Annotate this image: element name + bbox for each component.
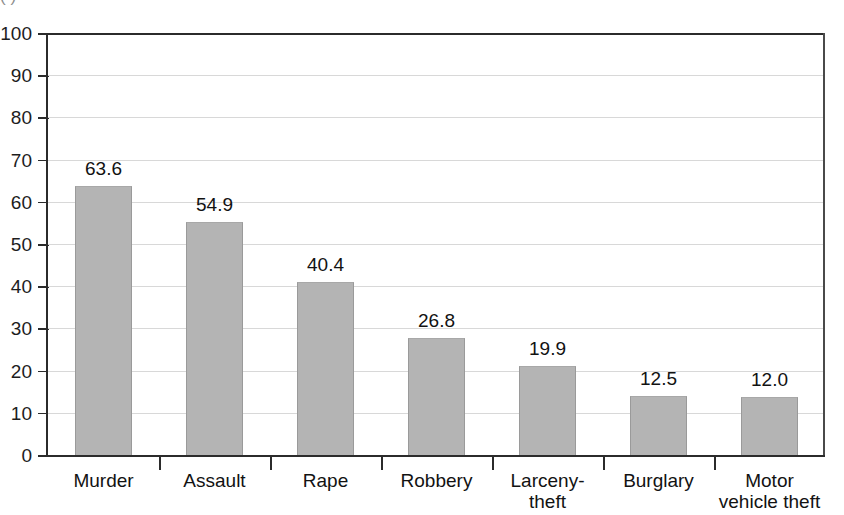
bar-chart: ( ) 1009080706050403020100 63.654.940.42…	[0, 0, 844, 515]
clipped-caption-text: ( )	[0, 0, 16, 7]
plot-area	[48, 33, 825, 455]
x-tick-mark	[714, 457, 716, 470]
bar-value-label: 26.8	[397, 311, 477, 330]
x-axis-line	[46, 455, 825, 457]
gridline	[48, 160, 825, 161]
plot-border-top	[48, 33, 825, 35]
y-tick-label: 50	[0, 235, 32, 254]
y-tick-label: 60	[0, 193, 32, 212]
x-tick-label: Motor vehicle theft	[704, 470, 836, 512]
y-axis-line	[46, 33, 48, 457]
bar-value-label: 19.9	[508, 339, 588, 358]
y-tick-label: 100	[0, 24, 32, 43]
bar	[408, 338, 465, 455]
bar-value-label: 12.5	[619, 369, 699, 388]
y-tick-label: 40	[0, 277, 32, 296]
y-tick-label: 90	[0, 66, 32, 85]
clipped-caption: ( )	[0, 0, 844, 9]
x-tick-mark	[603, 457, 605, 470]
y-tick-label: 10	[0, 404, 32, 423]
bar-value-label: 63.6	[64, 159, 144, 178]
x-tick-mark	[492, 457, 494, 470]
gridline	[48, 286, 825, 287]
plot-border-right	[823, 33, 825, 455]
x-tick-mark	[381, 457, 383, 470]
bar	[75, 186, 132, 455]
bar-value-label: 40.4	[286, 255, 366, 274]
bar	[741, 397, 798, 455]
bar-value-label: 54.9	[175, 195, 255, 214]
bar	[297, 282, 354, 455]
bar	[630, 396, 687, 455]
x-tick-mark	[270, 457, 272, 470]
gridline	[48, 202, 825, 203]
bar-value-label: 12.0	[730, 370, 810, 389]
bar	[186, 222, 243, 455]
gridline	[48, 117, 825, 118]
x-tick-mark	[159, 457, 161, 470]
y-tick-label: 20	[0, 362, 32, 381]
y-tick-label: 0	[0, 446, 32, 465]
y-tick-label: 30	[0, 319, 32, 338]
y-tick-label: 80	[0, 108, 32, 127]
bar	[519, 366, 576, 455]
gridline	[48, 75, 825, 76]
y-tick-label: 70	[0, 151, 32, 170]
gridline	[48, 244, 825, 245]
